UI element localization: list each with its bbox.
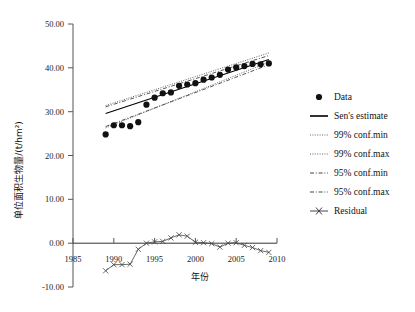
legend-label-sen: Sen's estimate: [334, 111, 388, 121]
data-point: [184, 81, 190, 87]
data-point: [200, 77, 206, 83]
y-ticklabel-20: 20.00: [45, 151, 64, 161]
legend-label-95min: 95% conf.min: [334, 168, 388, 178]
series-residual: [103, 232, 271, 273]
data-point: [241, 63, 247, 69]
legend-label-95max: 95% conf.max: [334, 187, 390, 197]
chart-legend: Data Sen's estimate 99% conf.min 99% con…: [310, 92, 390, 216]
series-99-conf-min: [106, 62, 269, 128]
chart-figure: 50.00 40.00 30.00 20.00 10.00 0.00 -10.0…: [0, 0, 415, 312]
data-point: [103, 131, 109, 137]
x-ticklabel-1995: 1995: [146, 254, 163, 264]
legend-label-99max: 99% conf.max: [334, 149, 390, 159]
data-point: [233, 64, 239, 70]
residual-line: [106, 235, 269, 271]
data-point: [152, 95, 158, 101]
legend-label-data: Data: [334, 92, 353, 102]
series-95-conf-min: [106, 65, 269, 127]
y-ticklabel-40: 40.00: [45, 63, 64, 73]
legend-label-residual: Residual: [334, 206, 368, 216]
x-ticklabel-1985: 1985: [65, 254, 82, 264]
data-point: [192, 80, 198, 86]
y-axis-title: 单位面积生物量/(t/hm²): [13, 121, 24, 219]
y-ticklabel-30: 30.00: [45, 107, 64, 117]
data-point: [111, 122, 117, 128]
x-ticklabel-2005: 2005: [228, 254, 245, 264]
data-point: [209, 74, 215, 80]
x-ticklabel-2000: 2000: [187, 254, 204, 264]
y-ticklabel-0: 0.00: [49, 238, 64, 248]
data-point: [160, 90, 166, 96]
legend-marker-data-icon: [316, 94, 322, 100]
y-ticklabel-50: 50.00: [45, 19, 64, 29]
data-point: [225, 66, 231, 72]
y-ticklabel-neg10: -10.00: [42, 282, 64, 292]
data-point: [249, 61, 255, 67]
data-point: [168, 89, 174, 95]
data-point: [135, 119, 141, 125]
x-ticklabel-2010: 2010: [269, 254, 286, 264]
legend-marker-residual-icon: [310, 208, 328, 215]
series-99-conf-max: [106, 53, 269, 106]
data-point: [266, 60, 272, 66]
x-axis-title: 年份: [191, 271, 209, 282]
data-point: [119, 122, 125, 128]
data-point: [217, 72, 223, 78]
data-point: [258, 61, 264, 67]
chart-svg: 50.00 40.00 30.00 20.00 10.00 0.00 -10.0…: [0, 0, 415, 312]
series-data-points: [103, 60, 272, 137]
y-ticklabel-10: 10.00: [45, 194, 64, 204]
legend-label-99min: 99% conf.min: [334, 130, 388, 140]
data-point: [143, 102, 149, 108]
data-point: [127, 123, 133, 129]
data-point: [176, 83, 182, 89]
